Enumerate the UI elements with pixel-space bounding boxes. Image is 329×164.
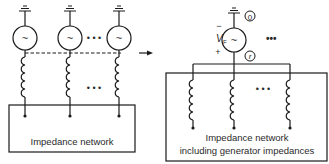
terminal-dot xyxy=(68,114,71,117)
terminal-dot xyxy=(191,126,194,129)
box-label-line2: including generator impedances xyxy=(180,145,315,156)
minus-sign: − xyxy=(216,21,221,31)
box-label: Impedance network xyxy=(31,136,114,147)
ellipsis-inductors: • • • xyxy=(87,83,101,93)
generator-1: ~ xyxy=(13,6,37,118)
left-diagram: ~ ~ ~ • • • xyxy=(9,6,135,152)
ground-icon xyxy=(64,6,76,11)
terminal-dot xyxy=(117,114,120,117)
transform-arrow xyxy=(139,51,153,56)
node-fault-label: r xyxy=(249,52,252,61)
sine-symbol: ~ xyxy=(22,32,28,44)
node-reference-label: 0 xyxy=(248,13,253,22)
circuit-diagram: ~ ~ ~ • • • xyxy=(0,0,329,164)
sine-symbol: ~ xyxy=(67,32,73,44)
inductor-icon xyxy=(115,57,119,97)
sine-symbol: ~ xyxy=(116,32,122,44)
ellipsis-generator: ••• xyxy=(266,33,277,44)
ground-icon xyxy=(113,6,125,11)
inductor-icon xyxy=(21,57,25,97)
generator-2: ~ xyxy=(58,6,82,118)
inductor-icon xyxy=(230,80,234,120)
inductor-icon xyxy=(66,57,70,97)
ellipsis-generators: • • • xyxy=(87,33,101,43)
inductor-icon xyxy=(286,80,290,120)
right-diagram: ~ 0 r − V F + ••• • • • Impedance xyxy=(166,8,327,161)
ground-icon xyxy=(19,6,31,11)
box-label-line1: Impedance network xyxy=(206,132,289,143)
inductor-icon xyxy=(189,80,193,120)
terminal-dot xyxy=(232,126,235,129)
source-voltage-subscript: F xyxy=(223,39,227,45)
sine-symbol: ~ xyxy=(231,34,237,46)
terminal-dot xyxy=(23,114,26,117)
terminal-dot xyxy=(288,126,291,129)
plus-sign: + xyxy=(215,47,220,57)
ground-icon xyxy=(228,8,240,13)
ellipsis-inductors: • • • xyxy=(256,84,270,94)
generator-3: ~ xyxy=(107,6,131,118)
